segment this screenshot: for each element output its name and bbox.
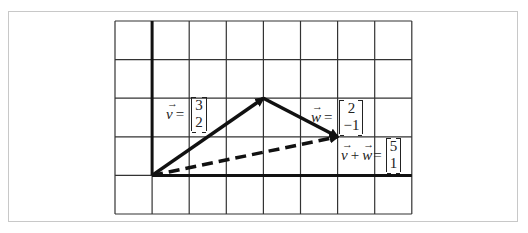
grid-lines (115, 21, 412, 214)
label-vector-sum: →v + →w = 51 (341, 138, 401, 172)
label-vector-w: →w = 2−1 (311, 100, 363, 134)
matrix-v: 32 (191, 97, 207, 131)
vector-grid-diagram (0, 0, 528, 233)
vector-v-symbol: →v (166, 106, 173, 123)
matrix-w: 2−1 (339, 100, 363, 134)
vector-v-symbol: →v (341, 147, 348, 164)
label-vector-v: →v = 32 (166, 97, 207, 131)
vector-w-symbol: →w (311, 109, 321, 126)
vector-w-symbol: →w (362, 147, 372, 164)
matrix-sum: 51 (386, 138, 402, 172)
